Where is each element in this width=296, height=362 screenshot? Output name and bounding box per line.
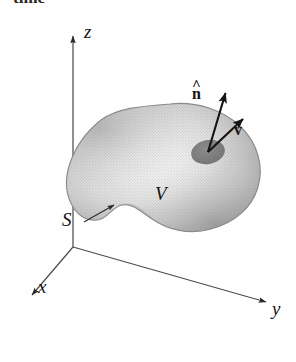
normal-vector-label: ^ n	[192, 86, 201, 102]
normal-vector-glyph-wrap: ^ n	[192, 86, 201, 102]
x-axis-label: x	[38, 277, 46, 296]
surface-label: S	[62, 210, 72, 229]
velocity-vector-label: v	[234, 122, 242, 138]
volume-label: V	[155, 184, 167, 203]
volume-blob	[60, 95, 275, 245]
blob-halftone-texture	[60, 95, 275, 245]
z-axis-label: z	[84, 22, 91, 41]
y-axis-label: y	[272, 299, 280, 318]
figure-container: time	[0, 0, 296, 362]
hat-accent-icon: ^	[192, 77, 201, 92]
flux-diagram-svg	[0, 0, 296, 362]
y-axis-line	[73, 247, 266, 302]
blob-shading-overlays	[60, 95, 275, 245]
